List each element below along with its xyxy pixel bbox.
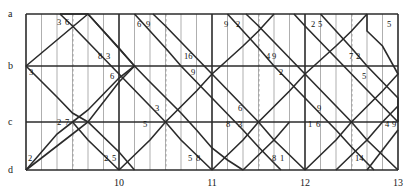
value-label: 7 <box>349 52 353 61</box>
row-label-d: d <box>8 165 13 175</box>
value-label: 2 <box>236 20 240 29</box>
value-label: 5 <box>318 20 322 29</box>
value-label: 2 <box>356 52 360 61</box>
value-label: 8 <box>196 154 200 163</box>
value-label: 2 <box>279 68 283 77</box>
lattice-figure: abcd 10111213 36833627225691693558924926… <box>0 0 408 196</box>
value-label: 2 <box>28 154 32 163</box>
value-label: 1 <box>280 154 284 163</box>
value-label: 6 <box>65 18 69 27</box>
value-label: 9 <box>272 52 276 61</box>
value-label: 3 <box>238 120 242 129</box>
value-label: 6 <box>316 120 320 129</box>
value-label: 9 <box>146 20 150 29</box>
value-label: 2 <box>311 20 315 29</box>
value-label: 5 <box>112 154 116 163</box>
zigzag-path <box>228 14 375 170</box>
value-label: 4 <box>385 120 389 129</box>
row-label-a: a <box>8 9 12 19</box>
value-label: 14 <box>355 154 364 163</box>
value-label: 5 <box>387 20 391 29</box>
value-label: 8 <box>226 120 230 129</box>
zigzag-path <box>153 14 305 170</box>
zigzag-path <box>321 14 399 122</box>
value-label: 6 <box>238 104 242 113</box>
value-label: 3 <box>106 52 110 61</box>
value-label: 2 <box>57 118 61 127</box>
zigzag-path <box>135 14 282 170</box>
value-label: 9 <box>191 68 195 77</box>
value-label: 3 <box>155 104 159 113</box>
value-label: 8 <box>98 52 102 61</box>
value-label: 4 <box>266 52 270 61</box>
value-label: 5 <box>188 154 192 163</box>
value-label: 16 <box>184 52 193 61</box>
x-tick-label-10: 10 <box>105 178 133 188</box>
x-tick-label-11: 11 <box>198 178 226 188</box>
value-label: 6 <box>110 72 114 81</box>
zigzag-path <box>246 14 398 170</box>
value-label: 9 <box>224 20 228 29</box>
value-label: 3 <box>29 68 33 77</box>
value-label: 7 <box>65 118 69 127</box>
value-label: 8 <box>272 154 276 163</box>
value-label: 6 <box>137 20 141 29</box>
row-label-b: b <box>8 61 13 71</box>
value-label: 3 <box>57 18 61 27</box>
value-label: 5 <box>362 72 366 81</box>
value-label: 9 <box>317 104 321 113</box>
value-label: 5 <box>143 120 147 129</box>
row-label-c: c <box>8 117 12 127</box>
zigzag-path <box>60 14 212 170</box>
lattice-canvas <box>0 0 408 196</box>
x-tick-label-12: 12 <box>291 178 319 188</box>
value-label: 2 <box>104 154 108 163</box>
x-tick-label-13: 13 <box>384 178 408 188</box>
value-label: 9 <box>392 120 396 129</box>
value-label: 1 <box>308 120 312 129</box>
